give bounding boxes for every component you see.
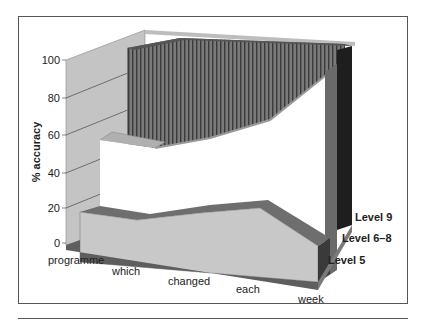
series-label: Level 6–8 (342, 232, 392, 244)
y-tick-label: 20 (48, 202, 60, 214)
series-label: Level 5 (328, 254, 365, 266)
y-tick-label: 40 (48, 167, 60, 179)
chart-3d-area: 020406080100 % accuracy programmewhichch… (0, 0, 424, 322)
x-category-label: changed (168, 275, 210, 287)
x-category-label: week (297, 293, 324, 305)
y-tick-label: 0 (54, 237, 60, 249)
y-axis: 020406080100 (42, 54, 66, 249)
x-category-label: which (111, 265, 140, 277)
y-axis-label: % accuracy (30, 121, 42, 182)
y-tick-label: 100 (42, 54, 60, 66)
series-level-9-end (337, 46, 352, 230)
series-label: Level 9 (355, 211, 392, 223)
x-category-label: each (236, 283, 260, 295)
y-tick-label: 60 (48, 129, 60, 141)
x-category-label: programme (48, 254, 104, 266)
y-tick-label: 80 (48, 92, 60, 104)
